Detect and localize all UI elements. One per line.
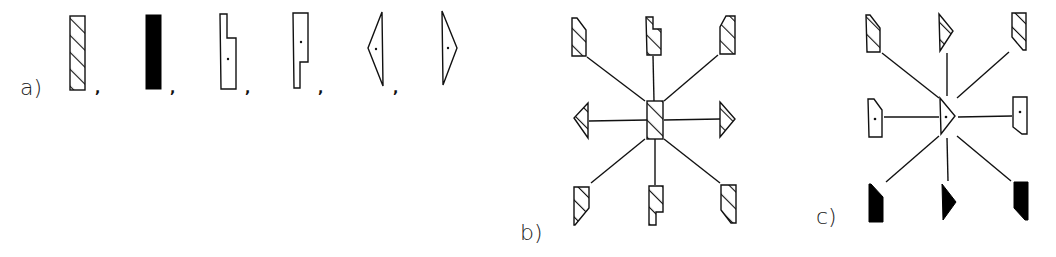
right-hatched-triangle	[720, 102, 735, 137]
top-hatched-triangle	[939, 14, 953, 51]
connector-line	[591, 139, 645, 183]
top-right-hatched-trapezoid	[1012, 13, 1026, 50]
connector-line	[664, 119, 720, 120]
center-dot	[447, 47, 449, 49]
comma-separator: ,	[95, 80, 100, 96]
center-dot	[874, 118, 877, 121]
center-hatched-rectangle	[647, 101, 663, 139]
panel-b-label: b)	[520, 220, 543, 245]
connector-line	[957, 136, 1011, 181]
comma-separator: ,	[245, 80, 250, 96]
panel-b: b)	[520, 16, 736, 245]
left-hatched-triangle	[574, 103, 588, 138]
black-rectangle-element	[146, 15, 161, 89]
center-dot	[227, 58, 229, 60]
panel-a-label: a)	[20, 75, 42, 100]
center-right-triangle	[940, 98, 955, 134]
connector-line	[589, 120, 647, 121]
connector-line	[886, 136, 939, 182]
hatched-rectangle-element	[70, 16, 85, 90]
bottom-left-hatched-trapezoid	[574, 187, 589, 225]
top-hatched-notched	[646, 17, 661, 55]
connector-line	[882, 53, 939, 98]
comma-separator: ,	[318, 80, 323, 96]
notched-lower-shape-element	[293, 13, 308, 88]
notched-upper-shape-element	[220, 14, 236, 89]
bottom-hatched-notched	[649, 186, 663, 225]
diagram-canvas: a) , , , , , b)	[0, 0, 1056, 257]
top-left-hatched-trapezoid	[572, 18, 586, 56]
connector-line	[664, 55, 718, 101]
panel-a: a) , , , , ,	[20, 11, 457, 100]
bottom-black-triangle	[942, 184, 956, 220]
bottom-right-hatched-trapezoid	[721, 185, 736, 223]
top-right-hatched-trapezoid	[720, 16, 735, 54]
comma-separator: ,	[170, 80, 175, 96]
center-dot	[1019, 111, 1022, 114]
connector-line	[957, 52, 1009, 98]
connector-line	[947, 138, 948, 181]
top-left-hatched-trapezoid	[866, 15, 880, 52]
connector-line	[664, 139, 720, 183]
panel-c-label: c)	[816, 204, 837, 229]
comma-separator: ,	[393, 80, 398, 96]
panel-c: c)	[816, 13, 1028, 229]
bottom-right-black-trapezoid	[1014, 182, 1028, 220]
bottom-left-black-trapezoid	[869, 184, 883, 222]
connector-line	[653, 56, 654, 101]
center-dot	[945, 116, 948, 119]
right-outline-trapezoid	[1013, 97, 1027, 134]
connector-line	[958, 116, 1012, 117]
right-triangle-element	[442, 11, 457, 85]
center-dot	[375, 48, 377, 50]
center-dot	[300, 41, 302, 43]
connector-line	[587, 57, 645, 101]
